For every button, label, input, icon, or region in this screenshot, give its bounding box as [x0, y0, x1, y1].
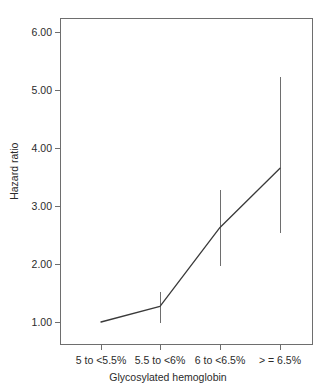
hazard-ratio-chart: 1.002.003.004.005.006.00 5 to <5.5%5.5 t… — [0, 0, 336, 390]
x-tick-label: > = 6.5% — [259, 355, 301, 366]
error-bars — [160, 77, 280, 323]
y-tick-label: 2.00 — [8, 259, 52, 270]
x-tick-label: 6 to <6.5% — [195, 355, 246, 366]
y-tick-label: 6.00 — [8, 27, 52, 38]
x-axis-tick-labels: 5 to <5.5%5.5 to <6%6 to <6.5%> = 6.5% — [0, 355, 336, 371]
hazard-ratio-line — [101, 168, 280, 322]
x-axis-title: Glycosylated hemoglobin — [0, 372, 336, 383]
x-tick-label: 5.5 to <6% — [135, 355, 186, 366]
x-axis-ticks — [101, 345, 280, 350]
y-tick-label: 5.00 — [8, 85, 52, 96]
x-tick-label: 5 to <5.5% — [76, 355, 127, 366]
y-axis-ticks — [55, 32, 60, 322]
y-tick-label: 1.00 — [8, 317, 52, 328]
y-axis-title: Hazard ratio — [9, 121, 20, 221]
